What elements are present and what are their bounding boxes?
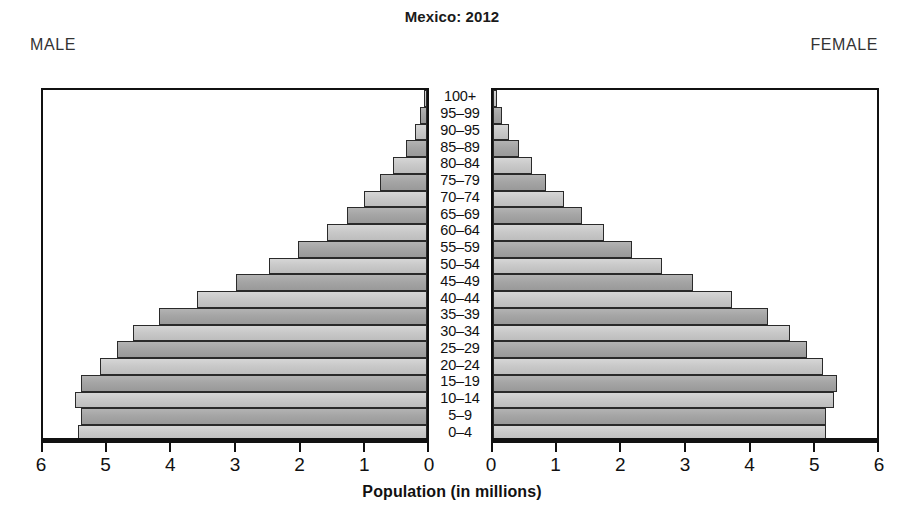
bar [493, 90, 497, 107]
age-group-label: 80–84 [429, 156, 491, 171]
female-plot-panel [491, 88, 879, 440]
age-group-label: 90–95 [429, 123, 491, 138]
bar [493, 408, 826, 425]
male-side-label: MALE [30, 36, 76, 54]
age-group-label: 100+ [429, 89, 491, 104]
axis-tick [427, 440, 429, 452]
bar-row [43, 408, 427, 425]
bar-row [43, 425, 427, 440]
bar-row [43, 107, 427, 124]
axis-tick-label: 2 [605, 454, 635, 476]
male-bar-group [43, 90, 427, 438]
axis-tick-label: 5 [91, 454, 121, 476]
age-group-label: 55–59 [429, 240, 491, 255]
bar [493, 224, 604, 241]
bar-row [493, 258, 877, 275]
bar-row [43, 90, 427, 107]
bar [298, 241, 427, 258]
axis-tick-label: 3 [220, 454, 250, 476]
axis-tick [749, 440, 751, 452]
bar-row [43, 140, 427, 157]
age-group-label: 10–14 [429, 391, 491, 406]
bar [269, 258, 427, 275]
bar [493, 107, 502, 124]
chart-title: Mexico: 2012 [0, 8, 904, 25]
axis-tick-label: 3 [670, 454, 700, 476]
bar [493, 124, 509, 141]
population-pyramid-chart: Mexico: 2012 MALE FEMALE 100+95–9990–958… [0, 0, 904, 518]
axis-tick-label: 6 [864, 454, 894, 476]
male-x-axis: 6543210 [41, 440, 429, 454]
bar-row [43, 124, 427, 141]
bar-row [43, 392, 427, 409]
axis-tick-label: 1 [349, 454, 379, 476]
x-axis-title: Population (in millions) [0, 483, 904, 501]
bar-row [493, 107, 877, 124]
bar-row [43, 191, 427, 208]
axis-tick [491, 440, 493, 452]
bar [364, 191, 427, 208]
axis-tick-label: 4 [155, 454, 185, 476]
bar [133, 325, 427, 342]
bar [493, 425, 826, 440]
bar-row [493, 358, 877, 375]
bar-row [43, 375, 427, 392]
axis-tick-label: 1 [541, 454, 571, 476]
bar-row [43, 174, 427, 191]
bar [493, 358, 823, 375]
axis-tick [105, 440, 107, 452]
axis-tick-label: 6 [26, 454, 56, 476]
bar [420, 107, 427, 124]
age-group-label: 0–4 [429, 425, 491, 440]
age-group-label: 40–44 [429, 291, 491, 306]
bar-row [493, 375, 877, 392]
bar-row [493, 274, 877, 291]
bar [236, 274, 427, 291]
bar [424, 90, 427, 107]
axis-tick [299, 440, 301, 452]
bar [197, 291, 427, 308]
bar-row [493, 425, 877, 440]
bar [81, 375, 427, 392]
bar [159, 308, 427, 325]
bar-row [493, 308, 877, 325]
bar [493, 157, 532, 174]
axis-tick [363, 440, 365, 452]
bar [493, 325, 790, 342]
bar-row [43, 291, 427, 308]
bar-row [493, 224, 877, 241]
bar [493, 241, 632, 258]
bar-row [493, 341, 877, 358]
age-group-label: 50–54 [429, 257, 491, 272]
age-group-label: 45–49 [429, 274, 491, 289]
axis-tick-label: 5 [799, 454, 829, 476]
axis-tick [169, 440, 171, 452]
bar-row [493, 408, 877, 425]
age-group-label: 30–34 [429, 324, 491, 339]
bar [380, 174, 427, 191]
female-x-axis: 0123456 [491, 440, 879, 454]
bar [347, 207, 427, 224]
axis-tick [234, 440, 236, 452]
bar [327, 224, 427, 241]
bar-row [43, 207, 427, 224]
age-group-label: 85–89 [429, 140, 491, 155]
age-group-label: 60–64 [429, 223, 491, 238]
bar [493, 274, 693, 291]
bar [493, 375, 837, 392]
bar-row [493, 90, 877, 107]
bar [493, 140, 519, 157]
bar [78, 425, 427, 440]
bar [493, 291, 732, 308]
bar-row [493, 207, 877, 224]
age-group-label: 5–9 [429, 408, 491, 423]
bar [415, 124, 427, 141]
bar-row [43, 358, 427, 375]
axis-tick [684, 440, 686, 452]
bar-row [43, 341, 427, 358]
axis-tick [619, 440, 621, 452]
bar [493, 207, 582, 224]
female-side-label: FEMALE [810, 36, 878, 54]
bar-row [493, 291, 877, 308]
bar-row [43, 258, 427, 275]
